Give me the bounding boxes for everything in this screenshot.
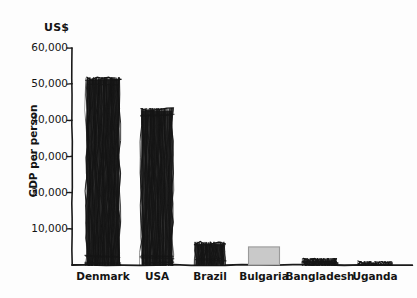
- bar-denmark: [84, 75, 121, 271]
- bar-uganda: [357, 257, 393, 268]
- bar-chart: US$ GDP per person 10,00020,00030,00040,…: [0, 0, 417, 298]
- bar-usa: [139, 106, 174, 271]
- bar-bangladesh: [301, 257, 339, 268]
- bar-brazil: [194, 241, 227, 268]
- plot-area: [0, 0, 417, 298]
- bar-bulgaria: [249, 247, 280, 265]
